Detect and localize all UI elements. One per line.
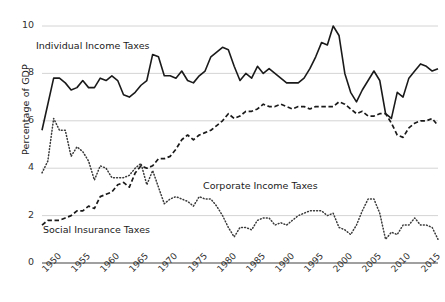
chart-container: Percentage of GDP 0246810 19501955196019… [0, 0, 445, 302]
series-label-individual: Individual Income Taxes [36, 40, 149, 51]
y-tick-label: 8 [8, 66, 34, 77]
series-line-corporate [42, 118, 438, 239]
y-tick-label: 10 [8, 19, 34, 30]
series-lines [42, 26, 438, 239]
series-label-social: Social Insurance Taxes [43, 224, 150, 235]
y-tick-label: 0 [8, 256, 34, 267]
y-tick-label: 6 [8, 114, 34, 125]
y-tick-label: 4 [8, 161, 34, 172]
y-tick-label: 2 [8, 209, 34, 220]
y-axis-title: Percentage of GDP [20, 45, 31, 175]
series-line-social [42, 102, 438, 225]
series-label-corporate: Corporate Income Taxes [203, 180, 318, 191]
